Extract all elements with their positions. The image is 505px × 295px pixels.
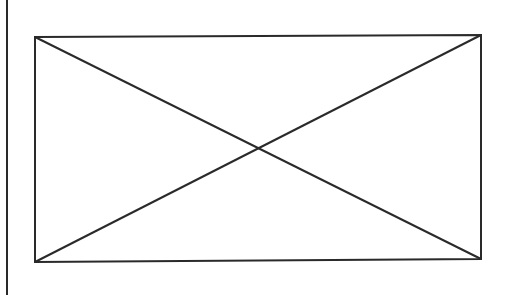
placeholder-diagonal-2 bbox=[35, 35, 481, 262]
image-placeholder-icon bbox=[0, 0, 505, 295]
